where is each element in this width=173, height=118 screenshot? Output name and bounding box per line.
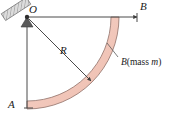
label-radius-r: R bbox=[60, 45, 67, 56]
label-pivot-o: O bbox=[29, 4, 37, 15]
label-body-mass: B(mass m) bbox=[121, 58, 161, 68]
physics-figure: O B A R B(mass m) bbox=[0, 0, 173, 118]
label-point-b: B bbox=[140, 1, 147, 12]
label-point-a: A bbox=[8, 99, 15, 110]
label-mass-close: ) bbox=[158, 57, 161, 67]
label-mass-open: (mass bbox=[127, 57, 152, 67]
